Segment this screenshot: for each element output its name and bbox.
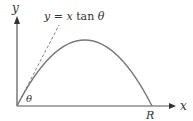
projectile-diagram: y x y = x tan θ θ R bbox=[0, 0, 193, 121]
angle-label: θ bbox=[26, 93, 32, 104]
tangent-eq: = bbox=[50, 10, 66, 23]
tangent-theta: θ bbox=[98, 10, 105, 23]
tangent-fn: tan bbox=[73, 10, 98, 23]
y-axis-label: y bbox=[11, 1, 19, 15]
range-label: R bbox=[145, 109, 154, 121]
x-axis-arrow-icon bbox=[169, 103, 176, 109]
y-axis-arrow-icon bbox=[14, 16, 20, 24]
tangent-line-label: y = x tan θ bbox=[43, 10, 105, 23]
x-axis-label: x bbox=[180, 99, 187, 113]
trajectory-curve bbox=[17, 40, 152, 106]
